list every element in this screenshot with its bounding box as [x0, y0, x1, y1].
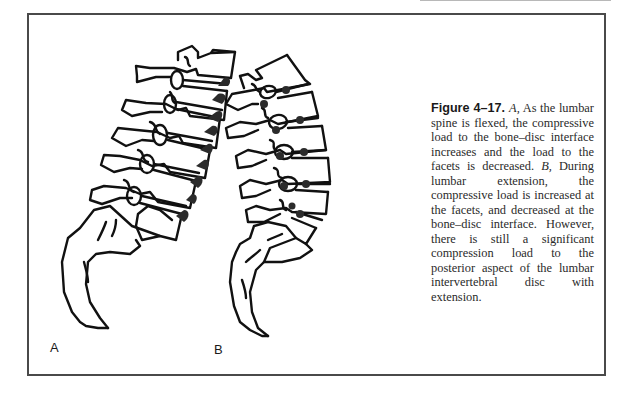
- spine-a-flexion: [62, 46, 235, 328]
- caption-marker-a: A,: [509, 101, 520, 115]
- load-shading-a: [176, 78, 230, 222]
- caption-marker-b: B,: [541, 159, 552, 173]
- figure-number: Figure 4–17.: [431, 101, 505, 115]
- panel-label-a: A: [50, 340, 59, 355]
- spine-b-extension: [226, 55, 330, 336]
- figure-caption: Figure 4–17.A, As the lumbar spine is fl…: [431, 101, 594, 304]
- caption-text-b: During lumbar extension, the compressive…: [431, 159, 594, 304]
- panel-label-b: B: [214, 342, 223, 357]
